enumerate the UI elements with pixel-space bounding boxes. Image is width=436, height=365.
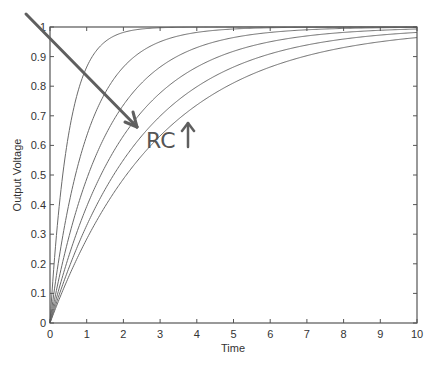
chart: 012345678910 00.10.20.30.40.50.60.70.80.… xyxy=(0,0,436,365)
y-tick-label: 0 xyxy=(40,317,46,329)
x-tick-label: 3 xyxy=(157,328,163,340)
curve-rc-0-5 xyxy=(50,27,417,323)
curve-rc-1-5 xyxy=(50,27,417,323)
curve-rc-3 xyxy=(50,38,417,323)
x-tick-label: 9 xyxy=(377,328,383,340)
x-tick-label: 4 xyxy=(194,328,200,340)
curve-rc-2 xyxy=(50,29,417,323)
curve-rc-1 xyxy=(50,27,417,323)
x-tick-label: 10 xyxy=(411,328,423,340)
up-arrow-icon xyxy=(182,123,194,147)
curves xyxy=(50,27,417,323)
rc-annotation-text: RC xyxy=(146,128,176,153)
curve-rc-2-5 xyxy=(50,32,417,323)
x-tick-label: 6 xyxy=(267,328,273,340)
x-axis-ticks: 012345678910 xyxy=(47,27,423,340)
y-tick-label: 0.7 xyxy=(31,110,46,122)
y-tick-label: 0.5 xyxy=(31,169,46,181)
plot-frame xyxy=(50,27,417,323)
x-tick-label: 1 xyxy=(84,328,90,340)
y-tick-label: 0.6 xyxy=(31,139,46,151)
y-tick-label: 0.1 xyxy=(31,287,46,299)
y-axis-label: Output Voltage xyxy=(11,139,23,212)
y-tick-label: 0.4 xyxy=(31,199,46,211)
x-tick-label: 2 xyxy=(120,328,126,340)
x-tick-label: 0 xyxy=(47,328,53,340)
y-tick-label: 0.8 xyxy=(31,80,46,92)
y-tick-label: 0.3 xyxy=(31,228,46,240)
x-tick-label: 5 xyxy=(230,328,236,340)
y-tick-label: 0.9 xyxy=(31,51,46,63)
x-tick-label: 7 xyxy=(304,328,310,340)
x-axis-label: Time xyxy=(221,342,245,354)
y-tick-label: 0.2 xyxy=(31,258,46,270)
x-tick-label: 8 xyxy=(341,328,347,340)
